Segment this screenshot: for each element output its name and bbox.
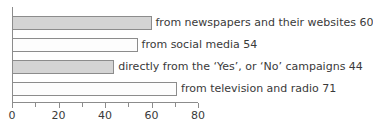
x-tick-20	[59, 103, 60, 108]
x-tick-label-80: 80	[191, 109, 205, 122]
x-tick-label-60: 60	[145, 109, 159, 122]
x-tick-label-0: 0	[9, 109, 16, 122]
bar-label-3: directly from the ‘Yes’, or ‘No’ campaig…	[118, 60, 363, 74]
bar-3	[12, 60, 114, 74]
x-tick-label-40: 40	[98, 109, 112, 122]
bar-2	[12, 38, 138, 52]
x-tick-0	[12, 103, 13, 108]
x-tick-minor-30	[82, 103, 83, 107]
x-tick-80	[198, 103, 199, 108]
x-tick-minor-70	[175, 103, 176, 107]
x-tick-minor-10	[35, 103, 36, 107]
x-tick-60	[152, 103, 153, 108]
bar-label-2: from social media 54	[142, 38, 258, 52]
bar-4	[12, 82, 177, 96]
x-tick-label-20: 20	[52, 109, 66, 122]
bar-label-4: from television and radio 71	[181, 82, 336, 96]
x-tick-minor-50	[128, 103, 129, 107]
bar-1	[12, 16, 152, 30]
x-tick-40	[105, 103, 106, 108]
bar-label-1: from newspapers and their websites 60	[156, 16, 373, 30]
